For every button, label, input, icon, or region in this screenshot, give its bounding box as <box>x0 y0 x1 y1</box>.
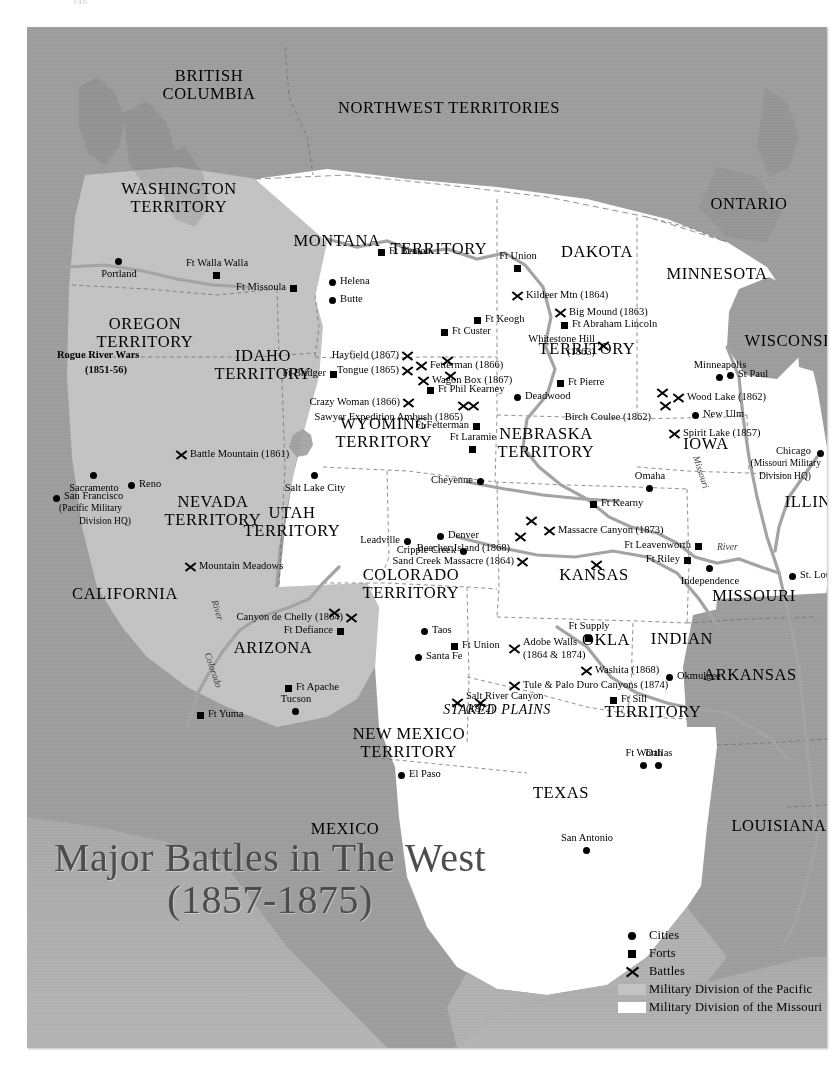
legend-label-battles: Battles <box>649 964 685 979</box>
square-icon <box>628 950 636 958</box>
legend-symbol-battles <box>615 965 649 979</box>
dot-icon <box>628 932 636 940</box>
legend-row-military-division-of-the-pacific: Military Division of the Pacific <box>615 981 827 998</box>
map-title-line1: Major Battles in The West <box>35 837 505 879</box>
river-label-missouri-0: Missouri <box>691 454 711 489</box>
x-icon <box>625 964 640 979</box>
map-title-line2: (1857-1875) <box>35 879 505 921</box>
legend-row-cities: Cities <box>615 927 827 944</box>
legend-symbol-military-division-of-the-pacific <box>615 983 649 997</box>
page-number: 146 <box>50 0 110 6</box>
legend-symbol-forts <box>615 947 649 961</box>
legend-label-military-division-of-the-pacific: Military Division of the Pacific <box>649 982 812 997</box>
river-label-river-1: River <box>717 542 738 552</box>
legend-label-cities: Cities <box>649 928 679 943</box>
legend-row-battles: Battles <box>615 963 827 980</box>
legend-symbol-military-division-of-the-missouri <box>615 1001 649 1015</box>
legend-label-military-division-of-the-missouri: Military Division of the Missouri <box>649 1000 822 1015</box>
legend-row-military-division-of-the-missouri: Military Division of the Missouri <box>615 999 827 1016</box>
map-title: Major Battles in The West (1857-1875) <box>35 837 505 921</box>
legend-label-forts: Forts <box>649 946 676 961</box>
legend-row-forts: Forts <box>615 945 827 962</box>
map-page: 146 <box>0 0 838 1080</box>
swatch-pacific-icon <box>618 984 646 995</box>
river-label-river-2: River <box>209 599 225 622</box>
legend-symbol-cities <box>615 929 649 943</box>
river-label-colorado-3: Colorado <box>203 651 224 689</box>
swatch-missouri-icon <box>618 1002 646 1013</box>
map-legend: CitiesFortsBattlesMilitary Division of t… <box>615 927 827 1017</box>
historical-map: BRITISHCOLUMBIANORTHWEST TERRITORIESONTA… <box>27 27 827 1048</box>
